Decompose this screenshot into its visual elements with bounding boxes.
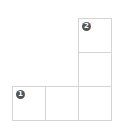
cell-top-right: 2 <box>78 18 112 53</box>
cell-bottom-right <box>78 86 112 121</box>
cell-bottom-middle <box>45 86 79 121</box>
number-badge-1: 1 <box>16 90 25 99</box>
cell-middle-right <box>78 52 112 87</box>
number-badge-2: 2 <box>82 22 91 31</box>
cell-bottom-left: 1 <box>12 86 46 121</box>
